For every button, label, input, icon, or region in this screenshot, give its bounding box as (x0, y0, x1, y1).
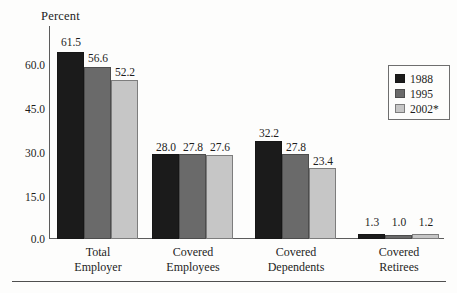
bar-value-label: 23.4 (303, 155, 343, 167)
bar-group-covered-retirees: 1.3 1.0 1.2 (358, 26, 440, 239)
legend-item-1995: 1995 (395, 86, 449, 101)
y-tick-label-60: 60.0 (1, 59, 45, 71)
bar-1995 (385, 235, 412, 239)
y-tick-label-30: 30.0 (1, 147, 45, 159)
bar-1988 (57, 52, 84, 239)
legend-label: 1988 (410, 73, 433, 85)
legend: 1988 1995 2002* (388, 65, 450, 120)
legend-item-2002: 2002* (395, 101, 449, 116)
bar-value-label: 61.5 (51, 36, 91, 48)
bar-group-covered-employees: 28.0 27.8 27.6 (152, 26, 234, 239)
category-line-1: Covered (334, 245, 457, 260)
legend-swatch-icon (395, 104, 405, 113)
bar-2002 (309, 168, 336, 239)
y-tick-label-15: 15.0 (1, 191, 45, 203)
legend-swatch-icon (395, 89, 405, 98)
y-tick-label-45: 45.0 (1, 103, 45, 115)
bar-2002 (206, 155, 233, 239)
legend-item-1988: 1988 (395, 71, 449, 86)
bar-group-covered-dependents: 32.2 27.8 23.4 (255, 26, 337, 239)
bar-chart: Percent 60.0 45.0 30.0 15.0 0.0 61.5 56.… (0, 0, 457, 293)
bar-value-label: 56.6 (78, 52, 118, 64)
bar-1988 (152, 154, 179, 239)
category-line-2: Retirees (334, 260, 457, 275)
bar-2002 (412, 234, 439, 239)
bar-2002 (111, 80, 138, 239)
legend-label: 2002* (410, 103, 439, 115)
bar-1995 (84, 67, 111, 239)
bar-1988 (255, 141, 282, 239)
bar-value-label: 32.2 (249, 127, 289, 139)
legend-swatch-icon (395, 74, 405, 83)
y-tick-label-0: 0.0 (1, 233, 45, 245)
y-axis-title: Percent (41, 9, 80, 24)
plot-area: 61.5 56.6 52.2 28.0 27.8 27.6 32.2 27.8 … (50, 26, 444, 239)
bottom-divider (12, 281, 446, 282)
bar-value-label: 27.8 (276, 141, 316, 153)
legend-label: 1995 (410, 88, 433, 100)
bar-1988 (358, 234, 385, 239)
bar-value-label: 52.2 (105, 66, 145, 78)
bar-group-total-employer: 61.5 56.6 52.2 (57, 26, 139, 239)
bar-value-label: 1.2 (406, 216, 446, 228)
x-category-label-covered-retirees: Covered Retirees (334, 245, 457, 275)
bar-1995 (179, 154, 206, 239)
bar-value-label: 27.6 (200, 141, 240, 153)
